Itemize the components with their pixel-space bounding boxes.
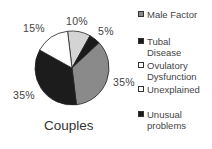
slice-label-5: 5% — [98, 25, 114, 37]
slice-label-10: 10% — [66, 15, 88, 27]
legend-swatch — [138, 111, 144, 117]
legend-swatch — [138, 86, 144, 92]
legend-swatch — [138, 62, 144, 68]
slice-label-15: 15% — [23, 22, 45, 34]
legend-swatch — [138, 38, 144, 44]
slice-label-35-left: 35% — [13, 89, 35, 101]
slice-label-35-right: 35% — [113, 76, 135, 88]
chart-title: Couples — [44, 118, 94, 133]
legend-swatch — [138, 11, 144, 17]
